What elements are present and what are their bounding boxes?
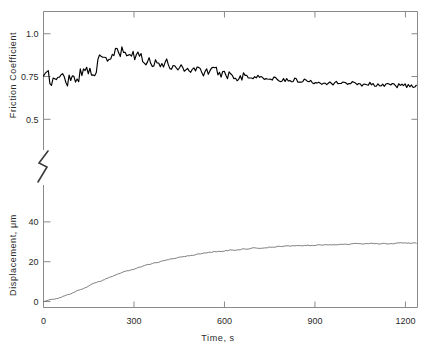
time-tick-label: 900: [307, 316, 322, 326]
time-tick-label: 600: [217, 316, 232, 326]
displacement-y-axis-label: Displacement, μm: [8, 214, 18, 296]
displacement-tick-label: 20: [28, 257, 38, 267]
displacement-y-ticks: [44, 222, 51, 302]
friction-coefficient-trace: [44, 47, 417, 88]
right-axis-ticks: [412, 34, 418, 120]
time-tick-label: 1200: [395, 316, 415, 326]
friction-displacement-figure: 1.00.750.54020003006009001200 Time, s Fr…: [0, 0, 434, 350]
x-axis-label: Time, s: [201, 333, 234, 343]
displacement-tick-label: 0: [33, 297, 38, 307]
displacement-trace: [44, 243, 417, 302]
friction-tick-label: 0.75: [21, 72, 39, 82]
time-tick-label: 300: [126, 316, 141, 326]
friction-y-axis-label: Friction Coefficient: [8, 32, 18, 118]
axis-break-icon: [38, 151, 48, 182]
time-axis-ticks: [44, 12, 406, 308]
displacement-tick-label: 40: [28, 217, 38, 227]
friction-tick-label: 1.0: [26, 29, 39, 39]
time-tick-label: 0: [41, 316, 46, 326]
plot-svg: 1.00.750.54020003006009001200 Time, s Fr…: [0, 0, 434, 350]
friction-tick-label: 0.5: [26, 115, 39, 125]
